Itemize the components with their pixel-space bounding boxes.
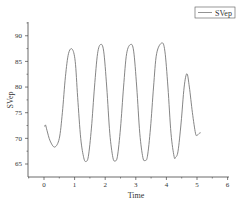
x-tick-label: 4	[165, 181, 169, 189]
y-tick-label: 80	[15, 83, 23, 91]
y-tick-label: 90	[15, 32, 23, 40]
line-chart: 657075808590 0123456 Time SVep SVep	[0, 0, 250, 213]
legend-label-svep: SVep	[215, 9, 232, 18]
y-axis-title: SVep	[6, 92, 15, 109]
y-ticks: 657075808590	[15, 23, 28, 168]
y-tick-label: 75	[15, 109, 23, 117]
x-tick-label: 3	[134, 181, 138, 189]
x-tick-label: 1	[73, 181, 77, 189]
y-tick-label: 85	[15, 58, 23, 66]
x-ticks: 0123456	[29, 177, 230, 189]
x-tick-label: 2	[103, 181, 107, 189]
y-tick-label: 70	[15, 135, 23, 143]
y-tick-label: 65	[15, 160, 23, 168]
x-tick-label: 6	[226, 181, 230, 189]
x-tick-label: 5	[195, 181, 199, 189]
legend: SVep	[195, 7, 235, 18]
x-tick-label: 0	[42, 181, 46, 189]
x-axis-title: Time	[128, 191, 145, 200]
series-line-svep	[45, 43, 201, 162]
